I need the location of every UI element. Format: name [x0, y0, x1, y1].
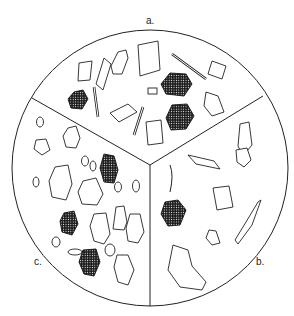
particle [49, 165, 72, 200]
particle-dark [60, 211, 78, 235]
particle-dark-hex [68, 90, 88, 109]
particle-dark [161, 200, 186, 226]
particle [78, 178, 103, 205]
particle [146, 120, 163, 145]
particle-dark [79, 249, 100, 276]
particle [114, 255, 134, 285]
particle [206, 230, 220, 245]
particle [148, 88, 157, 94]
particle-dark-hex [161, 73, 192, 96]
particle [236, 148, 251, 167]
sector-a-particles [68, 41, 226, 145]
particle-dark [100, 154, 118, 183]
particle [138, 41, 160, 76]
particle [208, 61, 226, 79]
particle-elongated [235, 200, 261, 244]
particle [113, 206, 127, 230]
sector-label-a: a. [146, 15, 154, 26]
sector-label-c: c. [34, 256, 42, 267]
particle [78, 61, 92, 81]
particle-shard [170, 165, 172, 192]
particle [34, 139, 50, 155]
particle-large-plate [168, 245, 206, 290]
particle-diagram: a. b. c. [0, 0, 294, 316]
sector-c-particles [33, 117, 144, 285]
particle-dark-hex [166, 104, 194, 130]
sector-label-b: b. [256, 256, 264, 267]
particle [204, 92, 224, 116]
particle [96, 58, 111, 90]
particle [126, 214, 144, 243]
sector-b-particles [161, 122, 261, 290]
particle [188, 155, 220, 169]
particle [37, 117, 44, 127]
particle [213, 186, 233, 210]
particle [63, 126, 80, 148]
particle [110, 104, 137, 122]
particle [90, 213, 110, 244]
particle [111, 50, 128, 74]
